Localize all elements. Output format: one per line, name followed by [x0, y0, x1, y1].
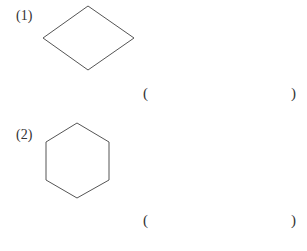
- answer-open-paren: (: [143, 211, 148, 229]
- hexagon-figure: [0, 0, 307, 251]
- answer-close-paren: ): [291, 211, 296, 229]
